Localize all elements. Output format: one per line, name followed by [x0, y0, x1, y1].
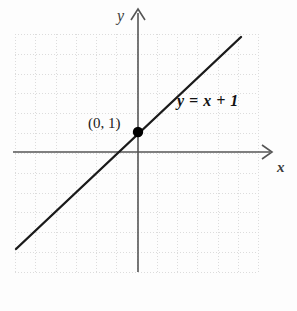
x-axis-label: x: [277, 160, 285, 175]
point-marker-0-1: [133, 127, 143, 137]
point-coordinate-label: (0, 1): [88, 116, 121, 131]
line-y-equals-x-plus-1: [16, 37, 241, 249]
x-axis: [13, 145, 272, 159]
graph-figure: y x y = x + 1 (0, 1): [0, 0, 297, 311]
y-axis: [131, 9, 145, 272]
y-axis-label: y: [117, 8, 124, 24]
equation-annotation: y = x + 1: [177, 93, 239, 109]
plot-canvas: [0, 0, 297, 311]
